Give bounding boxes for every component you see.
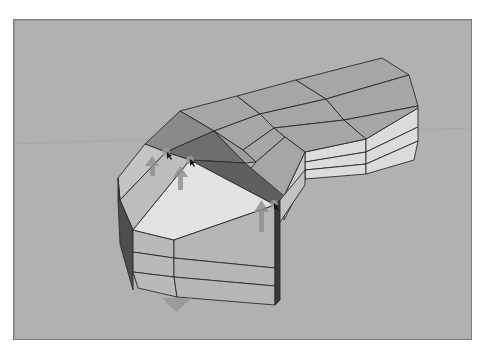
move-arrow-down[interactable] <box>162 298 192 312</box>
3d-scene[interactable] <box>0 0 485 351</box>
